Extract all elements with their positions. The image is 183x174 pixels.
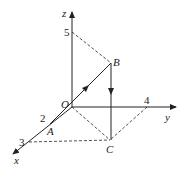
coordinate-diagram: z 5 B O 4 y 2 A 3 C x [0,0,183,174]
y-label: y [164,111,170,123]
x-tick-3: 3 [19,136,25,148]
z-tick-5: 5 [64,26,70,38]
origin-label: O [61,98,69,110]
point-a-label: A [46,125,54,137]
y-tick-4: 4 [144,94,150,106]
a-tick-2: 2 [40,112,46,124]
z-label: z [61,7,67,19]
point-c-label: C [106,143,114,155]
point-b-label: B [113,56,120,68]
x-label: x [13,154,19,166]
vector-bc-arrow [108,88,114,95]
